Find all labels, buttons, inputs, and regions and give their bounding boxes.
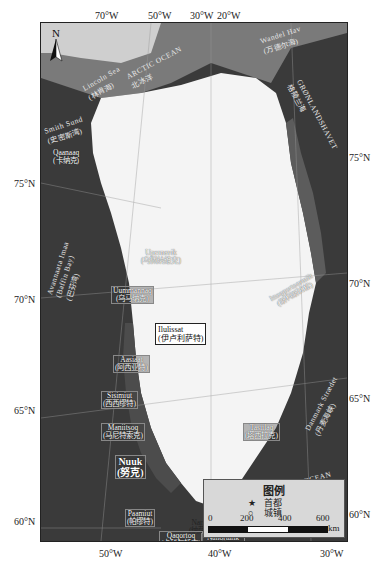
map-legend: 图例 ★ 首都 ○ 城镇 0 200 400 600 km [203, 479, 345, 538]
place-nuuk: Nuuk(努克) [115, 455, 146, 479]
place-paamiut: Paamiut(帕缪特) [125, 509, 155, 527]
lon-label-top: 20°W [217, 10, 240, 21]
place-upernavik: Upernavik(乌佩纳维克) [141, 249, 181, 265]
place-qaqortoq: Qaqortoq(卡科尔托克) [159, 531, 203, 542]
lon-label-bottom: 50°W [99, 548, 122, 559]
place-sisimiut: Sisimiut(西西缪特) [101, 391, 138, 409]
lat-label-left: 70°N [14, 294, 35, 305]
place-uummannaq: Uummannaq(乌马纳克) [111, 286, 154, 304]
place-aasiaat: Aasiaat(阿西亚特) [113, 355, 150, 373]
lon-label-top: 70°W [95, 10, 118, 21]
svg-text:N: N [52, 27, 60, 39]
place-tasiilaq: Tasiilaq(塔西拉克) [243, 423, 280, 441]
lon-label-bottom: 40°W [208, 548, 231, 559]
lat-label-left: 75°N [14, 178, 35, 189]
place-maniitsoq: Maniitsoq(马尼特索克) [101, 423, 145, 441]
place-ilulissat: Ilulissat(伊卢利萨特) [155, 323, 206, 345]
lon-label-bottom: 30°W [320, 548, 343, 559]
scale-bar [208, 526, 328, 533]
lat-label-right: 60°N [349, 509, 370, 520]
lat-label-right: 65°N [349, 393, 370, 404]
lat-label-right: 70°N [349, 278, 370, 289]
scale-unit: km [328, 523, 340, 533]
lon-label-top: 50°W [148, 10, 171, 21]
north-arrow-icon: N [46, 27, 66, 69]
place-qaanaaq: Qaanaaq(卡纳克) [53, 149, 79, 165]
lat-label-left: 60°N [14, 516, 35, 527]
lat-label-left: 65°N [14, 405, 35, 416]
map-frame: N ARCTIC OCEAN北冰洋 Lincoln Sea(林肯海) Wande… [40, 22, 348, 542]
lon-label-top: 30°W [190, 10, 213, 21]
lat-label-right: 75°N [349, 152, 370, 163]
